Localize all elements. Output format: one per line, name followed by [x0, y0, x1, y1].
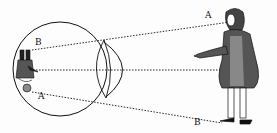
label-bottom-inner: A	[37, 91, 45, 101]
eye-diagram: A B B A	[0, 0, 277, 133]
retinal-image	[16, 50, 38, 92]
illustration: A B B A	[0, 0, 277, 133]
lens	[96, 40, 110, 98]
man-figure	[194, 9, 259, 125]
label-top-inner: B	[35, 37, 42, 47]
light-rays	[30, 22, 230, 123]
label-bottom-outer: B	[194, 117, 201, 127]
label-top-outer: A	[204, 10, 212, 20]
